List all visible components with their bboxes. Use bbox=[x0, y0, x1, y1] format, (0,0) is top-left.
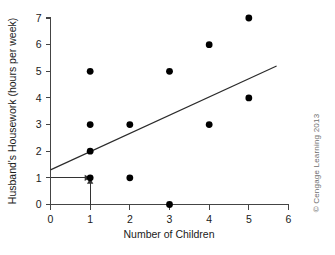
data-point bbox=[166, 201, 173, 208]
plot-canvas: 01234567 0123456 Number of Children Husb… bbox=[0, 0, 335, 255]
data-point bbox=[126, 174, 133, 181]
data-point bbox=[87, 121, 94, 128]
y-tick-label: 1 bbox=[36, 172, 42, 184]
data-point bbox=[126, 121, 133, 128]
data-point bbox=[87, 174, 94, 181]
y-tick-label: 0 bbox=[36, 198, 42, 210]
copyright-credit: © Cengage Learning 2013 bbox=[312, 113, 321, 212]
prediction-annotations bbox=[51, 175, 94, 205]
data-point bbox=[245, 15, 252, 22]
y-tick-label: 3 bbox=[36, 118, 42, 130]
data-point bbox=[166, 68, 173, 75]
x-tick-label: 4 bbox=[206, 213, 212, 225]
x-tick-label: 6 bbox=[286, 213, 292, 225]
regression-line bbox=[51, 66, 277, 170]
data-point bbox=[87, 148, 94, 155]
x-tick-label: 3 bbox=[167, 213, 173, 225]
data-point bbox=[206, 121, 213, 128]
y-tick-label: 2 bbox=[36, 145, 42, 157]
data-point bbox=[245, 95, 252, 102]
data-point bbox=[206, 41, 213, 48]
x-tick-label: 2 bbox=[127, 213, 133, 225]
regression-line-group bbox=[51, 66, 277, 170]
y-tick-label: 7 bbox=[36, 12, 42, 24]
x-tick-label: 1 bbox=[87, 213, 93, 225]
y-tick-label: 6 bbox=[36, 38, 42, 50]
x-tick-label: 0 bbox=[48, 213, 54, 225]
y-tick-label: 5 bbox=[36, 65, 42, 77]
y-axis-title: Husband's Housework (hours per week) bbox=[6, 18, 18, 204]
scatter-plot-figure: 01234567 0123456 Number of Children Husb… bbox=[0, 0, 335, 255]
y-tick-label: 4 bbox=[36, 92, 42, 104]
x-axis-title: Number of Children bbox=[123, 228, 214, 240]
data-points-group bbox=[87, 15, 252, 208]
data-point bbox=[87, 68, 94, 75]
y-axis-ticks: 01234567 bbox=[36, 12, 51, 211]
x-tick-label: 5 bbox=[246, 213, 252, 225]
